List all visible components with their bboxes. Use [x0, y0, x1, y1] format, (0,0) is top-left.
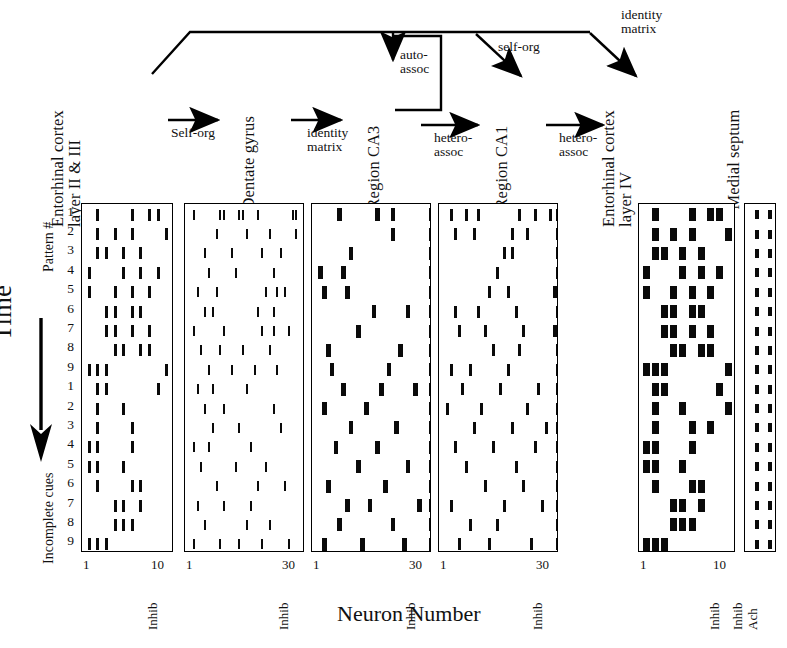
raster-panel-ms[interactable] [744, 203, 776, 552]
spike-mark [488, 538, 491, 550]
spike-mark [768, 501, 772, 510]
spike-mark [303, 501, 304, 511]
spike-mark [515, 306, 518, 318]
spike-mark [139, 480, 142, 492]
x-tick-label: 1 [440, 557, 447, 573]
spike-mark [122, 403, 125, 415]
spike-mark [114, 325, 117, 337]
spike-mark [679, 344, 686, 357]
spike-mark [114, 228, 117, 240]
spike-mark [368, 499, 373, 512]
region-title-ec4-line2: layer IV [618, 110, 635, 227]
spike-mark [755, 346, 759, 355]
spike-mark [96, 403, 99, 415]
spike-mark [429, 518, 431, 531]
spike-mark [212, 423, 214, 433]
spike-mark [698, 266, 705, 279]
spike-mark [303, 442, 304, 452]
spike-mark [643, 441, 650, 454]
spike-mark [375, 441, 380, 454]
spike-mark [507, 286, 510, 298]
spike-mark [450, 209, 453, 221]
spike-mark [212, 307, 214, 317]
spike-mark [707, 344, 714, 357]
row-number: 7 [60, 495, 74, 511]
spike-mark [698, 480, 705, 493]
column-label-inhib: Inhib [530, 603, 546, 630]
spike-mark [545, 422, 548, 434]
spike-mark [429, 344, 431, 357]
spike-mark [96, 209, 99, 221]
column-label-inhib: Inhib [276, 603, 292, 630]
spike-mark [734, 421, 735, 434]
spike-mark [734, 247, 735, 260]
spike-mark [250, 501, 252, 511]
spike-mark [165, 364, 168, 376]
spike-mark [689, 480, 696, 493]
row-number: 8 [60, 514, 74, 530]
spike-mark [265, 287, 267, 297]
spike-mark [484, 325, 487, 337]
spike-mark [707, 325, 714, 338]
spike-mark [768, 288, 772, 297]
spike-mark [235, 462, 237, 472]
spike-mark [219, 539, 221, 549]
x-tick-label: 30 [409, 557, 422, 573]
spike-mark [288, 326, 290, 336]
spike-mark [689, 421, 696, 434]
spike-mark [372, 305, 377, 318]
spike-mark [122, 247, 125, 259]
row-number: 2 [60, 398, 74, 414]
spike-mark [429, 266, 431, 279]
spike-mark [461, 383, 464, 395]
spike-mark [303, 229, 304, 239]
spike-mark [105, 325, 108, 337]
spike-mark [429, 460, 431, 473]
spike-mark [303, 268, 304, 278]
spike-mark [96, 461, 99, 473]
spike-mark [208, 268, 210, 278]
spike-mark [499, 383, 502, 395]
spike-mark [661, 538, 668, 551]
spike-mark [661, 305, 668, 318]
row-number: 5 [60, 281, 74, 297]
spike-mark [197, 287, 199, 297]
spike-mark [522, 325, 525, 337]
spike-mark [652, 480, 659, 493]
spike-mark [537, 383, 540, 395]
raster-panel-ca1[interactable] [438, 203, 558, 552]
spike-mark [429, 421, 431, 434]
spike-mark [223, 404, 225, 414]
spike-mark [707, 208, 714, 221]
row-number: 7 [60, 320, 74, 336]
spike-mark [391, 228, 396, 241]
spike-mark [322, 286, 327, 299]
raster-panel-ec4[interactable] [638, 203, 735, 552]
raster-panel-ec23[interactable] [81, 203, 173, 552]
row-number: 2 [60, 223, 74, 239]
spike-mark [261, 326, 263, 336]
spike-mark [534, 209, 537, 221]
spike-mark [670, 305, 677, 318]
raster-panel-dg[interactable] [184, 203, 304, 552]
spike-mark [556, 209, 558, 221]
spike-mark [755, 249, 759, 258]
spike-mark [454, 441, 457, 453]
spike-mark [216, 229, 218, 239]
region-title-ca3-line1: Region CA3 [365, 126, 382, 210]
spike-mark [303, 307, 304, 317]
spike-mark [679, 402, 686, 415]
spike-mark [518, 344, 521, 356]
raster-panel-ca3[interactable] [311, 203, 431, 552]
spike-mark [88, 538, 91, 550]
spike-mark [280, 423, 282, 433]
spike-mark [204, 520, 206, 530]
spike-mark [204, 248, 206, 258]
spike-mark [556, 500, 558, 512]
spike-mark [454, 228, 457, 240]
spike-mark [96, 422, 99, 434]
row-number: 1 [60, 378, 74, 394]
spike-mark [303, 423, 304, 433]
spike-mark [96, 383, 99, 395]
spike-mark [652, 402, 659, 415]
